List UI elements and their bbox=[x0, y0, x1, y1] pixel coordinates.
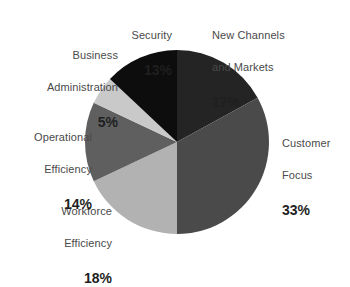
pie-value-new-channels: 17% bbox=[212, 94, 322, 111]
pie-label-customer-focus-line1: Customer bbox=[282, 137, 348, 150]
pie-value-security: 13% bbox=[96, 62, 172, 79]
pie-value-workforce: 18% bbox=[8, 270, 112, 287]
pie-label-workforce-line2: Efficiency bbox=[8, 237, 112, 250]
pie-label-new-channels-line2: and Markets bbox=[212, 61, 322, 74]
pie-label-security-line1: Security bbox=[96, 29, 172, 42]
pie-value-business-admin: 5% bbox=[14, 114, 118, 131]
pie-value-operational: 14% bbox=[2, 196, 92, 213]
pie-label-new-channels-and-markets: New Channels and Markets 17% bbox=[212, 10, 322, 129]
pie-label-customer-focus: Customer Focus 33% bbox=[282, 118, 348, 237]
pie-label-new-channels-line1: New Channels bbox=[212, 29, 322, 42]
pie-value-customer-focus: 33% bbox=[282, 202, 348, 219]
pie-label-operational-line2: Efficiency bbox=[2, 163, 92, 176]
pie-label-security: Security 13% bbox=[96, 10, 172, 97]
pie-label-customer-focus-line2: Focus bbox=[282, 169, 348, 182]
